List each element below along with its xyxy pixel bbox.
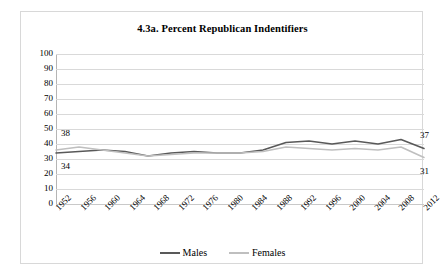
y-tick-label-50: 50 [23,124,53,133]
x-axis-labels: 1952195619601964196819721976198019841988… [56,206,424,252]
y-tick-label-0: 0 [23,199,53,208]
y-axis-labels: 0102030405060708090100 [21,54,53,204]
chart-title: 4.3a. Percent Republican Indentifiers [21,23,424,34]
y-tick-label-20: 20 [23,169,53,178]
legend-item-females[interactable]: Females [229,248,285,258]
chart-legend: MalesFemales [21,248,424,258]
y-tick-label-70: 70 [23,94,53,103]
y-tick-label-60: 60 [23,109,53,118]
chart-figure: 4.3a. Percent Republican Indentifiers 01… [20,11,423,264]
series-line-females [56,147,424,158]
data-label-females-1952: 38 [61,129,70,138]
series-container [56,54,424,204]
data-label-males-1952: 34 [61,162,70,171]
y-tick-label-80: 80 [23,79,53,88]
y-tick-label-30: 30 [23,154,53,163]
y-tick-label-90: 90 [23,64,53,73]
legend-label-females: Females [252,248,285,258]
data-label-males-2012: 37 [420,131,429,140]
y-tick-label-10: 10 [23,184,53,193]
data-label-females-2012: 31 [420,167,429,176]
legend-swatch-males [160,252,180,254]
legend-swatch-females [229,252,249,254]
plot-area [56,54,424,204]
legend-label-males: Males [183,248,207,258]
legend-item-males[interactable]: Males [160,248,207,258]
y-tick-label-100: 100 [23,49,53,58]
y-tick-label-40: 40 [23,139,53,148]
x-tick-label-2012: 2012 [422,193,441,212]
